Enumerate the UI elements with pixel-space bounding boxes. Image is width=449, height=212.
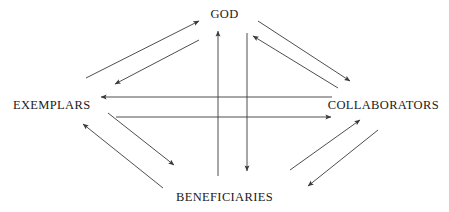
node-label-god: GOD bbox=[0, 8, 449, 21]
arrow-god-to-exemplars bbox=[115, 40, 199, 84]
arrow-god-to-collaborators bbox=[258, 21, 350, 81]
arrow-exemplars-to-beneficiaries bbox=[108, 113, 174, 165]
node-label-collaborators: COLLABORATORS bbox=[328, 99, 439, 112]
arrow-beneficiaries-to-collaborators bbox=[290, 120, 360, 170]
node-label-beneficiaries: BENEFICIARIES bbox=[0, 191, 449, 204]
node-label-exemplars: EXEMPLARS bbox=[13, 99, 90, 112]
arrow-collaborators-to-god bbox=[253, 36, 338, 88]
diagram-canvas: GOD EXEMPLARS COLLABORATORS BENEFICIARIE… bbox=[0, 0, 449, 212]
arrow-collaborators-to-beneficiaries bbox=[308, 130, 378, 186]
arrow-beneficiaries-to-exemplars bbox=[83, 124, 163, 188]
